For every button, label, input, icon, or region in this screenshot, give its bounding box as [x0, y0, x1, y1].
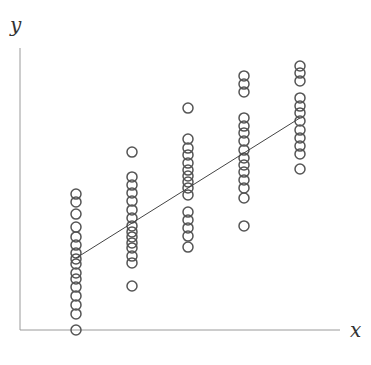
data-point — [183, 103, 193, 113]
x-axis-label: x — [350, 318, 361, 342]
data-point — [183, 190, 193, 200]
data-point — [127, 281, 137, 291]
regression-line — [76, 118, 300, 258]
data-point — [239, 221, 249, 231]
data-point — [295, 164, 305, 174]
y-axis-label: y — [9, 13, 22, 37]
data-point — [71, 209, 81, 219]
data-point — [183, 242, 193, 252]
data-point — [239, 193, 249, 203]
scatter-chart: y x — [0, 0, 371, 365]
data-points — [71, 61, 305, 335]
data-point — [127, 258, 137, 268]
data-point — [183, 165, 193, 175]
data-point — [127, 147, 137, 157]
data-point — [71, 222, 81, 232]
plot-axes — [20, 48, 340, 330]
